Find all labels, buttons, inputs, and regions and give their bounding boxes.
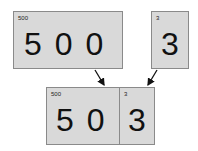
arrow-left [95, 70, 104, 85]
arrow-right [148, 70, 157, 85]
arrows [0, 0, 198, 151]
